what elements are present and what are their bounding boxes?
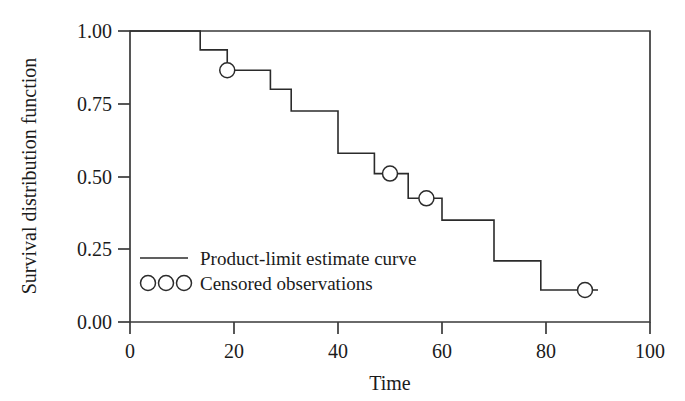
y-tick-label-0.00: 0.00 xyxy=(77,311,112,333)
survival-plot-figure: 1.00 0.75 0.50 0.25 0.00 0 20 40 60 80 1… xyxy=(0,0,685,401)
legend-label-curve: Product-limit estimate curve xyxy=(200,248,416,269)
x-axis-tick-labels: 0 20 40 60 80 100 xyxy=(125,340,665,362)
legend-circle-3 xyxy=(177,276,192,291)
y-axis-tick-labels: 1.00 0.75 0.50 0.25 0.00 xyxy=(77,20,112,333)
x-tick-label-80: 80 xyxy=(536,340,556,362)
y-axis-title: Survival distribution function xyxy=(18,58,40,295)
censored-observation-marker xyxy=(220,63,235,78)
x-tick-label-0: 0 xyxy=(125,340,135,362)
y-tick-label-0.50: 0.50 xyxy=(77,166,112,188)
x-tick-label-100: 100 xyxy=(635,340,665,362)
chart-legend: Product-limit estimate curve Censored ob… xyxy=(140,248,416,294)
legend-circle-1 xyxy=(141,276,156,291)
x-axis-title: Time xyxy=(369,372,411,394)
y-tick-label-0.25: 0.25 xyxy=(77,238,112,260)
x-axis-ticks xyxy=(130,322,650,334)
censored-observation-marker xyxy=(578,282,593,297)
legend-circle-2 xyxy=(159,276,174,291)
chart-canvas: 1.00 0.75 0.50 0.25 0.00 0 20 40 60 80 1… xyxy=(0,0,685,401)
y-tick-label-0.75: 0.75 xyxy=(77,93,112,115)
legend-label-censored: Censored observations xyxy=(200,273,373,294)
legend-circles-marker xyxy=(141,276,192,291)
censored-observation-marker xyxy=(419,191,434,206)
censored-observation-marker xyxy=(383,166,398,181)
x-tick-label-60: 60 xyxy=(432,340,452,362)
x-tick-label-40: 40 xyxy=(328,340,348,362)
y-axis-ticks xyxy=(118,31,130,322)
y-tick-label-1.00: 1.00 xyxy=(77,20,112,42)
x-tick-label-20: 20 xyxy=(224,340,244,362)
